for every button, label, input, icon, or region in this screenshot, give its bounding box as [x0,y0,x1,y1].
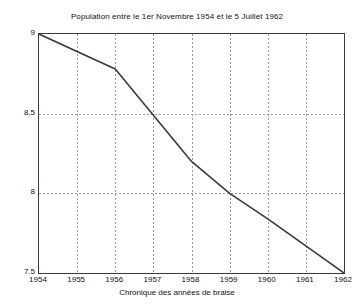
x-tick-label: 1961 [296,275,314,284]
grid-lines [39,34,344,273]
x-tick-label: 1959 [220,275,238,284]
data-series-line [39,34,344,273]
chart-figure: Population entre le 1er Novembre 1954 et… [0,0,354,308]
x-tick-label: 1954 [29,275,47,284]
plot-canvas [39,34,344,273]
x-axis-label: Chronique des années de braise [0,288,354,297]
x-tick-label: 1957 [143,275,161,284]
x-tick-label: 1962 [334,275,352,284]
series-polyline [39,34,344,273]
x-tick-label: 1955 [67,275,85,284]
x-tick-label: 1958 [182,275,200,284]
x-tick-label: 1960 [258,275,276,284]
x-tick-label: 1956 [105,275,123,284]
plot-area [38,33,345,274]
